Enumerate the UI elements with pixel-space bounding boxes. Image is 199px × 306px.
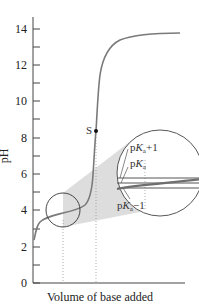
y-axis-title: pH <box>0 148 11 163</box>
ytick-4: 4 <box>21 203 27 217</box>
titration-chart: 0 2 4 6 8 10 12 14 pH Volume of base add… <box>0 0 199 306</box>
x-axis-title: Volume of base added <box>47 290 153 304</box>
ytick-14: 14 <box>15 22 27 36</box>
ytick-10: 10 <box>15 94 27 108</box>
ytick-12: 12 <box>15 58 27 72</box>
ytick-8: 8 <box>21 131 27 145</box>
magnified-inset: pKa+1 pKa pKa−1 <box>117 130 199 216</box>
y-ticks <box>33 29 40 283</box>
equivalence-point-label: S <box>86 124 92 136</box>
ytick-2: 2 <box>21 240 27 254</box>
y-tick-labels: 0 2 4 6 8 10 12 14 <box>15 22 27 290</box>
ytick-6: 6 <box>21 167 27 181</box>
ytick-0: 0 <box>21 276 27 290</box>
equivalence-point <box>94 129 98 133</box>
